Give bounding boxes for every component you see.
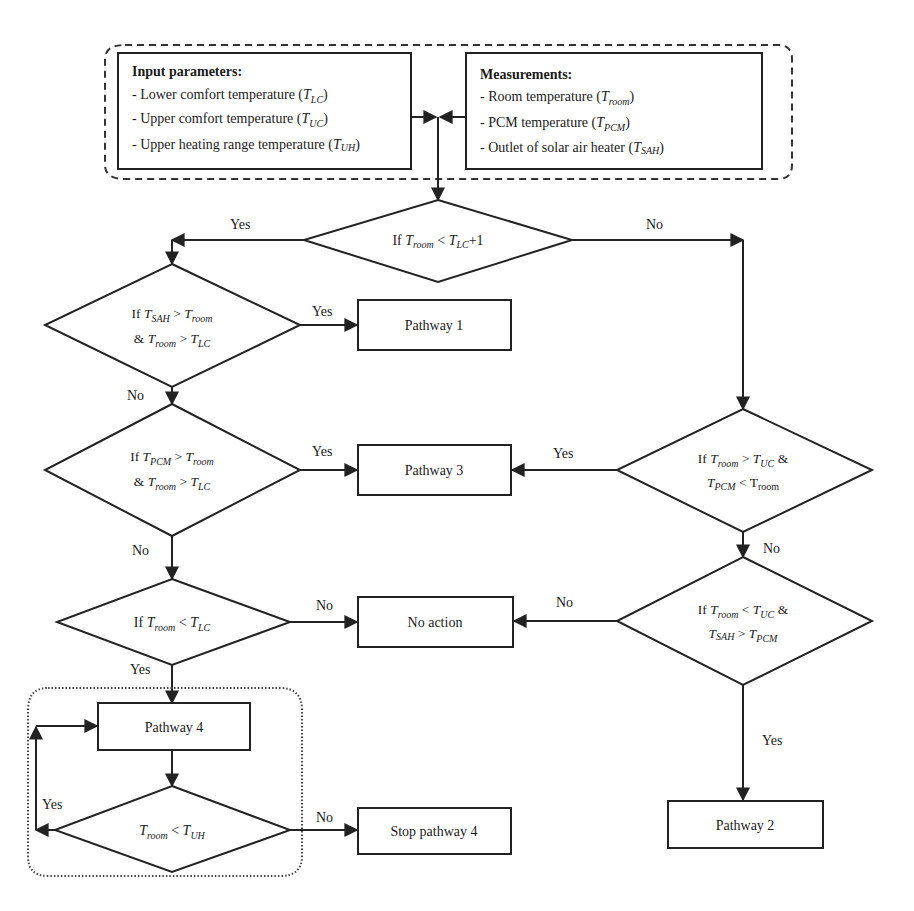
d2-no-label: No [127,388,144,403]
pathway-4-box: Pathway 4 [98,703,250,750]
d3-yes-label: Yes [312,444,332,459]
stop-pathway-4-label: Stop pathway 4 [390,824,477,839]
no-action-label: No action [408,615,463,630]
decision-d2: If TSAH > Troom & Troom > TLC [45,264,300,387]
pathway-2-box: Pathway 2 [668,801,823,848]
d6-no-label: No [763,541,780,556]
control-flowchart: Input parameters: - Lower comfort temper… [0,0,914,911]
d6-yes-label: Yes [553,446,573,461]
decision-d5: Troom < TUH [55,786,290,872]
d1-condition: If Troom < TLC+1 [392,233,483,250]
d5-yes-label: Yes [42,797,62,812]
decision-d1: If Troom < TLC+1 [304,200,572,282]
d7-no-label: No [556,595,573,610]
measurement-item-sah: - Outlet of solar air heater (TSAH) [480,140,664,156]
pathway-4-label: Pathway 4 [145,720,204,735]
decision-d6: If Troom > TUC & TPCM < Troom [617,409,872,532]
measurements-title: Measurements: [480,67,572,82]
stop-pathway-4-box: Stop pathway 4 [358,808,511,854]
decision-d7: If Troom < TUC & TSAH > TPCM [617,557,872,685]
d4-yes-label: Yes [130,662,150,677]
d5-no-label: No [316,810,333,825]
measurements-box: Measurements: - Room temperature (Troom)… [466,53,762,169]
decision-d3: If TPCM > Troom & Troom > TLC [45,404,300,536]
no-action-box: No action [358,597,513,647]
pathway-1-label: Pathway 1 [405,318,464,333]
d1-no-label: No [646,217,663,232]
pathway-2-label: Pathway 2 [716,818,775,833]
input-parameters-box: Input parameters: - Lower comfort temper… [118,53,411,169]
pathway-3-label: Pathway 3 [405,463,464,478]
input-parameters-title: Input parameters: [132,64,242,79]
pathway-1-box: Pathway 1 [358,300,511,350]
pathway-3-box: Pathway 3 [358,445,511,495]
d7-yes-label: Yes [762,733,782,748]
d3-no-label: No [132,543,149,558]
d2-yes-label: Yes [312,304,332,319]
decision-d4: If Troom < TLC [57,579,290,665]
d1-yes-label: Yes [230,217,250,232]
d4-no-label: No [316,598,333,613]
input-item-uh: - Upper heating range temperature (TUH) [132,137,360,153]
